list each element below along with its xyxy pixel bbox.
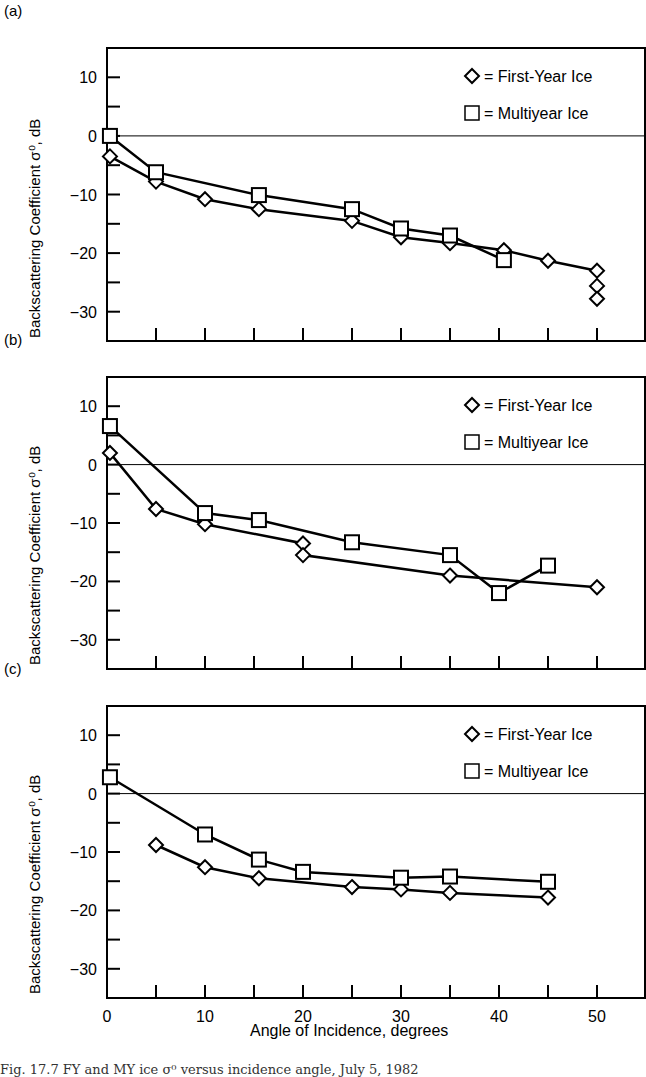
square-marker-icon (443, 870, 457, 884)
square-marker-icon (296, 865, 310, 879)
legend-diamond-icon (465, 69, 479, 83)
diamond-marker-icon (541, 891, 555, 905)
diamond-marker-icon (252, 202, 266, 216)
y-tick-label: 0 (88, 128, 97, 145)
plot-frame (107, 48, 645, 341)
diamond-marker-icon (590, 264, 604, 278)
plot-frame (107, 377, 645, 669)
y-tick-label: −30 (70, 304, 97, 321)
diamond-marker-icon (296, 548, 310, 562)
y-tick-label: 10 (79, 727, 97, 744)
square-marker-icon (443, 548, 457, 562)
legend-diamond-icon (465, 727, 479, 741)
legend-square-icon (465, 106, 479, 120)
legend-multiyear-ice: = Multiyear Ice (484, 434, 589, 451)
square-marker-icon (443, 229, 457, 243)
multiyear-ice-line (110, 777, 548, 882)
square-marker-icon (149, 165, 163, 179)
diamond-marker-icon (443, 886, 457, 900)
legend-first-year-ice: = First-Year Ice (484, 68, 592, 85)
multiyear-ice-line (110, 426, 548, 593)
diamond-marker-icon (198, 860, 212, 874)
y-tick-label: −20 (70, 245, 97, 262)
square-marker-icon (252, 188, 266, 202)
y-tick-label: −30 (70, 632, 97, 649)
diamond-marker-icon (443, 569, 457, 583)
square-marker-icon (394, 221, 408, 235)
square-marker-icon (252, 513, 266, 527)
y-tick-label: −20 (70, 902, 97, 919)
legend-square-icon (465, 435, 479, 449)
legend-diamond-icon (465, 398, 479, 412)
x-tick-label: 0 (103, 1008, 112, 1025)
first-year-ice-line (110, 453, 597, 587)
square-marker-icon (541, 875, 555, 889)
square-marker-icon (345, 535, 359, 549)
legend-multiyear-ice: = Multiyear Ice (484, 105, 589, 122)
square-marker-icon (492, 586, 506, 600)
y-tick-label: −20 (70, 573, 97, 590)
x-tick-label: 50 (588, 1008, 606, 1025)
square-marker-icon (497, 253, 511, 267)
y-tick-label: 0 (88, 457, 97, 474)
legend-multiyear-ice: = Multiyear Ice (484, 763, 589, 780)
plot-panel-c: 100−10−20−3001020304050= First-Year Ice=… (70, 706, 646, 1025)
diamond-marker-icon (590, 292, 604, 306)
legend-first-year-ice: = First-Year Ice (484, 397, 592, 414)
square-marker-icon (103, 770, 117, 784)
legend-square-icon (465, 764, 479, 778)
y-tick-label: 0 (88, 786, 97, 803)
square-marker-icon (103, 129, 117, 143)
y-tick-label: −10 (70, 187, 97, 204)
x-tick-label: 10 (196, 1008, 214, 1025)
plot-frame (107, 706, 645, 998)
diamond-marker-icon (345, 880, 359, 894)
figure-caption: Fig. 17.7 FY and MY ice σ⁰ versus incide… (0, 1062, 419, 1077)
y-tick-label: −30 (70, 961, 97, 978)
diamond-marker-icon (149, 838, 163, 852)
diamond-marker-icon (590, 580, 604, 594)
diamond-marker-icon (198, 192, 212, 206)
y-tick-label: 10 (79, 69, 97, 86)
x-axis-label: Angle of Incidence, degrees (250, 1022, 448, 1040)
plot-panel-b: 100−10−20−30= First-Year Ice= Multiyear … (70, 377, 646, 669)
y-tick-label: −10 (70, 844, 97, 861)
square-marker-icon (252, 853, 266, 867)
square-marker-icon (198, 827, 212, 841)
square-marker-icon (541, 559, 555, 573)
y-tick-label: −10 (70, 515, 97, 532)
square-marker-icon (103, 419, 117, 433)
plot-panel-a: 100−10−20−30= First-Year Ice= Multiyear … (70, 48, 646, 341)
diamond-marker-icon (103, 149, 117, 163)
diamond-marker-icon (541, 254, 555, 268)
y-tick-label: 10 (79, 398, 97, 415)
square-marker-icon (345, 202, 359, 216)
square-marker-icon (394, 871, 408, 885)
legend-first-year-ice: = First-Year Ice (484, 726, 592, 743)
diamond-marker-icon (252, 871, 266, 885)
x-tick-label: 40 (490, 1008, 508, 1025)
square-marker-icon (198, 506, 212, 520)
